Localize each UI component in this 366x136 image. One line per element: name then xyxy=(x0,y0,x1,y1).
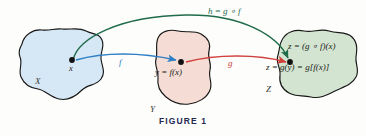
point-label-z-composite: z = (g ∘ f)(x) xyxy=(288,41,336,51)
arrow-label-h: h = g ∘ f xyxy=(208,6,241,16)
point-label-x: x xyxy=(69,63,73,73)
point-label-z-expanded: z = g(y) = g[f(x)] xyxy=(266,62,329,72)
set-x-blob xyxy=(19,29,103,100)
set-label-y: Y xyxy=(150,104,155,114)
figure-caption: FIGURE 1 xyxy=(0,116,366,126)
point-label-y: y = f(x) xyxy=(155,67,182,77)
arrow-label-g: g xyxy=(228,58,233,68)
arrow-label-f: f xyxy=(119,57,122,67)
point-y-dot xyxy=(178,59,184,65)
figure-container: X Y Z x y = f(x) z = (g ∘ f)(x) z = g(y)… xyxy=(0,0,366,136)
set-label-z: Z xyxy=(266,84,271,94)
set-label-x: X xyxy=(35,76,41,86)
